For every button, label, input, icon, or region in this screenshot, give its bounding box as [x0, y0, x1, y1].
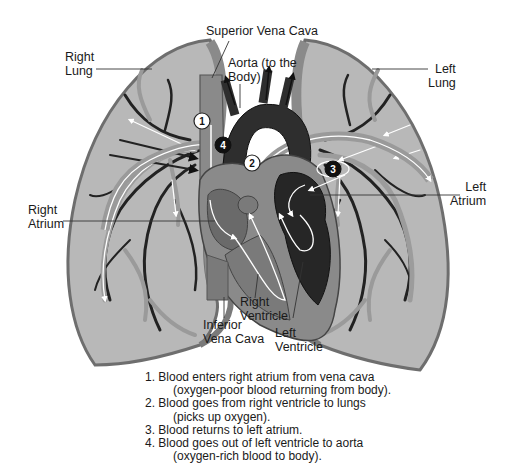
label-right-lung-line2: Lung — [65, 64, 94, 78]
label-left-atrium-line1: Left — [450, 180, 486, 194]
label-right-atrium-line2: Atrium — [28, 217, 64, 231]
label-aorta-line1: Aorta (to the — [228, 56, 297, 70]
label-left-lung-line1: Left — [428, 62, 456, 76]
label-left-ventricle-line2: Ventricle — [275, 340, 323, 354]
label-left-atrium: Left Atrium — [450, 180, 486, 208]
label-right-atrium: Right Atrium — [28, 203, 64, 231]
step-badge-2: 2 — [244, 155, 260, 171]
step-4: 4. Blood goes out of left ventricle to a… — [145, 437, 405, 463]
svg-text:3: 3 — [330, 164, 336, 175]
label-left-lung: Left Lung — [428, 62, 456, 90]
label-right-atrium-line1: Right — [28, 203, 64, 217]
step-2: 2. Blood goes from right ventricle to lu… — [145, 397, 405, 423]
step-2-line1: 2. Blood goes from right ventricle to lu… — [159, 397, 405, 410]
step-2-line2: (picks up oxygen). — [159, 411, 405, 424]
label-inferior-vena-cava-line1: Inferior — [203, 318, 264, 332]
label-left-atrium-line2: Atrium — [450, 194, 486, 208]
label-inferior-vena-cava-line2: Vena Cava — [203, 332, 264, 346]
step-badge-1: 1 — [194, 113, 210, 129]
label-aorta-line2: Body) — [228, 70, 297, 84]
svg-text:1: 1 — [199, 116, 205, 127]
svg-text:4: 4 — [220, 140, 226, 151]
svg-text:2: 2 — [249, 158, 255, 169]
label-left-lung-line2: Lung — [428, 76, 456, 90]
blood-flow-steps: 1. Blood enters right atrium from vena c… — [145, 371, 405, 463]
label-left-ventricle: Left Ventricle — [275, 326, 323, 354]
step-4-line2: (oxygen-rich blood to body). — [159, 450, 405, 463]
label-aorta: Aorta (to the Body) — [228, 56, 297, 84]
label-right-lung: Right Lung — [65, 50, 94, 78]
step-1: 1. Blood enters right atrium from vena c… — [145, 371, 405, 397]
step-badge-4: 4 — [215, 137, 231, 153]
label-superior-vena-cava: Superior Vena Cava — [206, 24, 318, 38]
label-right-lung-line1: Right — [65, 50, 94, 64]
label-left-ventricle-line1: Left — [275, 326, 323, 340]
label-right-ventricle-line1: Right — [240, 295, 288, 309]
label-inferior-vena-cava: Inferior Vena Cava — [203, 318, 264, 346]
